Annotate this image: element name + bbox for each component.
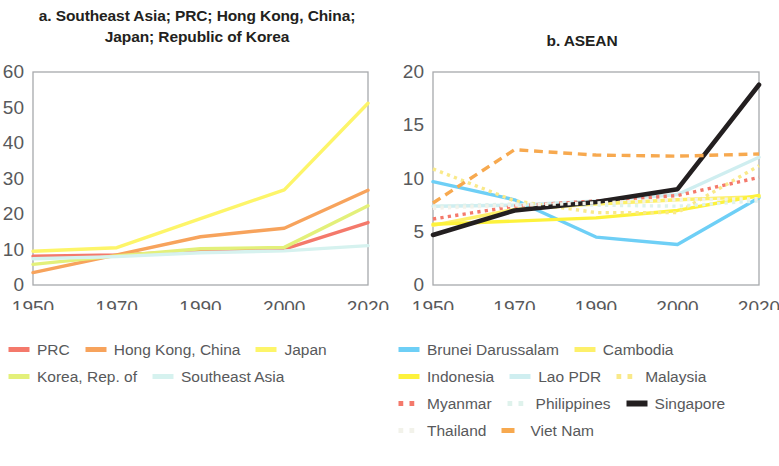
legend-swatch-icon xyxy=(398,425,420,436)
series-line xyxy=(433,85,759,235)
chart-panel-a: 010203040506019501970199020002020 xyxy=(0,62,392,310)
legend-swatch-icon xyxy=(507,398,529,409)
legend-swatch-icon xyxy=(574,344,596,355)
legend-swatch-icon xyxy=(398,371,420,382)
series-line xyxy=(433,182,759,245)
legend-label: Hong Kong, China xyxy=(114,342,241,358)
legend-row: Brunei DarussalamCambodia xyxy=(398,336,779,363)
legend-label: Philippines xyxy=(536,396,611,412)
x-tick-label: 1950 xyxy=(412,297,454,310)
series-line xyxy=(433,150,759,203)
legend-item-korea-rep-of[interactable]: Korea, Rep. of xyxy=(8,369,137,385)
legend-panel-b: Brunei DarussalamCambodiaIndonesiaLao PD… xyxy=(398,336,779,444)
plot-svg: 010203040506019501970199020002020 xyxy=(0,62,392,310)
x-tick-label: 1970 xyxy=(96,297,138,310)
y-tick-label: 5 xyxy=(413,221,424,242)
y-tick-label: 50 xyxy=(3,97,24,118)
y-tick-label: 15 xyxy=(403,114,424,135)
legend-label: PRC xyxy=(37,342,70,358)
x-tick-label: 2000 xyxy=(263,297,305,310)
legend-label: Korea, Rep. of xyxy=(37,369,137,385)
legend-swatch-icon xyxy=(152,371,174,382)
legend-label: Viet Nam xyxy=(530,423,593,439)
legend-label: Brunei Darussalam xyxy=(427,342,559,358)
y-tick-label: 0 xyxy=(13,274,24,295)
legend-row: MyanmarPhilippinesSingapore xyxy=(398,390,779,417)
legend-swatch-icon xyxy=(8,371,30,382)
legend-item-singapore[interactable]: Singapore xyxy=(626,396,726,412)
legend-label: Lao PDR xyxy=(538,369,601,385)
y-tick-label: 0 xyxy=(413,274,424,295)
panel-a-title-line-1: a. Southeast Asia; PRC; Hong Kong, China… xyxy=(2,6,392,27)
legend-item-cambodia[interactable]: Cambodia xyxy=(574,342,674,358)
legend-swatch-icon xyxy=(616,371,638,382)
legend-swatch-icon xyxy=(501,425,523,436)
legend-item-thailand[interactable]: Thailand xyxy=(398,423,486,439)
legend-label: Indonesia xyxy=(427,369,494,385)
legend-item-brunei-darussalam[interactable]: Brunei Darussalam xyxy=(398,342,559,358)
legend-row: ThailandViet Nam xyxy=(398,417,779,444)
y-tick-label: 10 xyxy=(403,168,424,189)
legend-item-myanmar[interactable]: Myanmar xyxy=(398,396,492,412)
legend-item-prc[interactable]: PRC xyxy=(8,342,70,358)
panel-a-title: a. Southeast Asia; PRC; Hong Kong, China… xyxy=(2,6,392,48)
legend-label: Cambodia xyxy=(603,342,674,358)
legend-item-lao-pdr[interactable]: Lao PDR xyxy=(509,369,601,385)
y-tick-label: 60 xyxy=(3,62,24,82)
x-tick-label: 1950 xyxy=(12,297,54,310)
legend-item-viet-nam[interactable]: Viet Nam xyxy=(501,423,593,439)
legend-swatch-icon xyxy=(398,398,420,409)
y-tick-label: 40 xyxy=(3,132,24,153)
legend-swatch-icon xyxy=(255,344,277,355)
x-tick-label: 2020 xyxy=(347,297,389,310)
legend-row: IndonesiaLao PDRMalaysia xyxy=(398,363,779,390)
legend-label: Japan xyxy=(284,342,326,358)
legend-item-japan[interactable]: Japan xyxy=(255,342,326,358)
legend-item-malaysia[interactable]: Malaysia xyxy=(616,369,706,385)
legend-item-philippines[interactable]: Philippines xyxy=(507,396,611,412)
legend-item-southeast-asia[interactable]: Southeast Asia xyxy=(152,369,284,385)
y-tick-label: 20 xyxy=(403,62,424,82)
legend-item-hong-kong-china[interactable]: Hong Kong, China xyxy=(85,342,241,358)
x-tick-label: 1990 xyxy=(575,297,617,310)
legend-swatch-icon xyxy=(8,344,30,355)
x-tick-label: 2020 xyxy=(738,297,779,310)
legend-item-indonesia[interactable]: Indonesia xyxy=(398,369,494,385)
plot-svg: 0510152019501970199020002020 xyxy=(392,62,779,310)
legend-label: Myanmar xyxy=(427,396,492,412)
panel-a-title-line-2: Japan; Republic of Korea xyxy=(2,27,392,48)
panel-b-title: b. ASEAN xyxy=(432,31,732,52)
legend-swatch-icon xyxy=(509,371,531,382)
legend-panel-a: PRCHong Kong, ChinaJapanKorea, Rep. ofSo… xyxy=(8,336,396,390)
chart-panel-b: 0510152019501970199020002020 xyxy=(392,62,779,310)
legend-label: Thailand xyxy=(427,423,486,439)
y-tick-label: 10 xyxy=(3,239,24,260)
legend-row: Korea, Rep. ofSoutheast Asia xyxy=(8,363,396,390)
legend-label: Southeast Asia xyxy=(181,369,284,385)
legend-label: Singapore xyxy=(655,396,726,412)
legend-swatch-icon xyxy=(398,344,420,355)
legend-swatch-icon xyxy=(626,398,648,409)
y-tick-label: 20 xyxy=(3,203,24,224)
x-tick-label: 1990 xyxy=(179,297,221,310)
legend-label: Malaysia xyxy=(645,369,706,385)
legend-swatch-icon xyxy=(85,344,107,355)
y-tick-label: 30 xyxy=(3,168,24,189)
x-tick-label: 2000 xyxy=(656,297,698,310)
x-tick-label: 1970 xyxy=(493,297,535,310)
legend-row: PRCHong Kong, ChinaJapan xyxy=(8,336,396,363)
